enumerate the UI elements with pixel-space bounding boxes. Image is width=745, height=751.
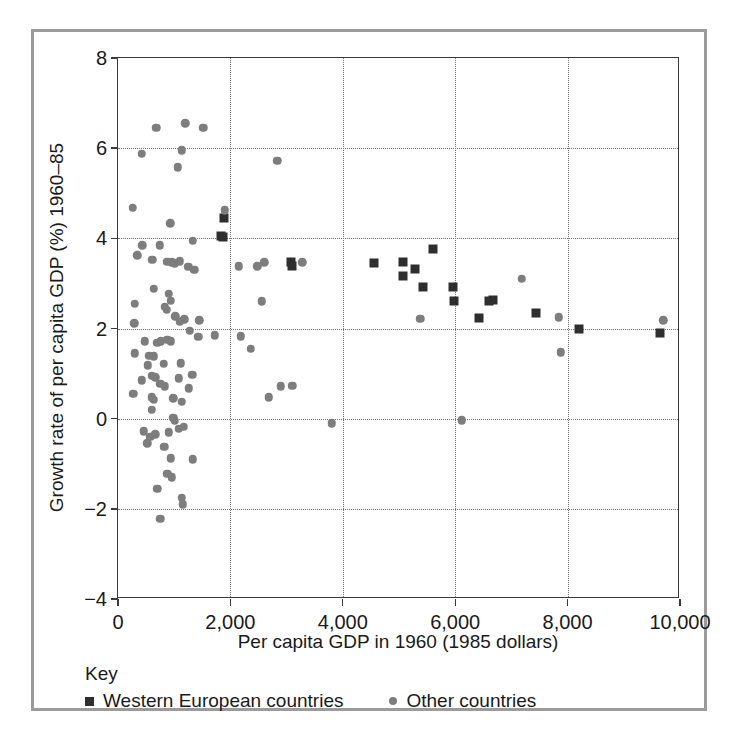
y-axis-tick-label: 4 [96, 227, 107, 250]
data-point-circle [159, 359, 168, 368]
data-point-square [370, 259, 379, 268]
data-point-circle [554, 313, 563, 322]
data-point-square [489, 296, 498, 305]
gridline-horizontal [118, 238, 678, 239]
data-point-circle [129, 390, 138, 399]
data-point-circle [235, 262, 244, 271]
data-point-square [287, 262, 296, 271]
data-point-circle [160, 442, 169, 451]
data-point-circle [164, 428, 173, 437]
y-axis-tick [111, 328, 118, 329]
gridline-horizontal [118, 419, 678, 420]
y-axis-tick-label: −2 [84, 497, 107, 520]
data-point-circle [137, 376, 146, 385]
x-axis-tick [679, 599, 680, 606]
data-point-circle [221, 206, 230, 215]
data-point-square [219, 233, 228, 242]
data-point-circle [141, 337, 150, 346]
data-point-circle [264, 393, 273, 402]
data-point-circle [150, 395, 159, 404]
data-point-circle [185, 384, 194, 393]
x-axis-tick [455, 599, 456, 606]
data-point-circle [258, 297, 267, 306]
data-point-circle [288, 382, 297, 391]
data-point-circle [298, 258, 307, 267]
y-axis-tick [111, 147, 118, 148]
data-point-circle [131, 349, 140, 358]
data-point-circle [327, 419, 336, 428]
data-point-circle [174, 374, 183, 383]
data-point-square [450, 296, 459, 305]
gridline-horizontal [118, 329, 678, 330]
circle-marker-icon [389, 697, 397, 705]
data-point-square [655, 329, 664, 338]
data-point-circle [138, 241, 147, 250]
y-axis-tick [111, 238, 118, 239]
gridline-vertical [568, 58, 569, 597]
data-point-circle [177, 398, 186, 407]
legend-entry: Western European countries [85, 690, 343, 712]
gridline-vertical [230, 58, 231, 597]
legend-title: Key [85, 663, 536, 685]
data-point-square [399, 258, 408, 267]
data-point-circle [156, 515, 165, 524]
data-point-circle [150, 285, 159, 294]
data-point-circle [178, 500, 187, 509]
data-point-circle [277, 382, 286, 391]
data-point-square [531, 308, 540, 317]
legend-entry-label: Western European countries [103, 690, 343, 712]
data-point-circle [144, 361, 153, 370]
data-point-square [219, 214, 228, 223]
data-point-circle [150, 352, 159, 361]
data-point-circle [148, 256, 157, 265]
figure-root: Growth rate of per capita GDP (%) 1960–8… [0, 0, 745, 751]
data-point-circle [188, 371, 197, 380]
data-point-circle [659, 316, 668, 325]
data-point-circle [147, 405, 156, 414]
y-axis-title: Growth rate of per capita GDP (%) 1960–8… [46, 57, 68, 598]
data-point-circle [168, 473, 177, 482]
data-point-circle [130, 319, 139, 328]
data-point-circle [151, 430, 160, 439]
data-point-circle [210, 331, 219, 340]
x-axis-tick [567, 599, 568, 606]
data-point-circle [186, 327, 195, 336]
y-axis-tick [111, 508, 118, 509]
data-point-circle [177, 146, 186, 155]
x-axis-tick [117, 599, 118, 606]
data-point-square [574, 324, 583, 333]
data-point-circle [153, 484, 162, 493]
data-point-circle [195, 316, 204, 325]
data-point-circle [166, 219, 175, 228]
y-axis-tick [111, 418, 118, 419]
data-point-square [448, 283, 457, 292]
data-point-circle [167, 454, 176, 463]
y-axis-tick [111, 57, 118, 58]
data-point-circle [163, 305, 172, 314]
data-point-circle [143, 439, 152, 448]
x-axis-title: Per capita GDP in 1960 (1985 dollars) [117, 631, 679, 653]
data-point-circle [176, 257, 185, 266]
data-point-circle [180, 423, 189, 432]
data-point-square [428, 244, 437, 253]
data-point-circle [199, 124, 208, 133]
data-point-circle [458, 416, 467, 425]
data-point-circle [246, 345, 255, 354]
y-axis-tick-label: 0 [96, 407, 107, 430]
data-point-circle [133, 251, 142, 260]
data-point-circle [167, 337, 176, 346]
data-point-circle [160, 382, 169, 391]
y-axis-tick-label: −4 [84, 588, 107, 611]
data-point-square [474, 314, 483, 323]
data-point-circle [155, 241, 164, 250]
data-point-square [411, 264, 420, 273]
data-point-circle [188, 236, 197, 245]
data-point-circle [181, 119, 190, 128]
data-point-circle [137, 149, 146, 158]
legend: Key Western European countriesOther coun… [85, 663, 536, 712]
data-point-circle [128, 203, 137, 212]
data-point-circle [236, 332, 245, 341]
data-point-circle [169, 394, 178, 403]
legend-entry: Other countries [389, 690, 536, 712]
x-axis-tick [342, 599, 343, 606]
